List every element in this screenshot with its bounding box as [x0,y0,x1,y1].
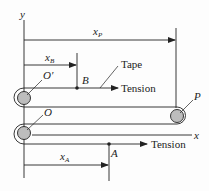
p-label: P [193,90,201,102]
tension-top-label: Tension [121,82,156,94]
x-axis-label: x [193,129,199,141]
tape-label: Tape [121,58,142,70]
a-label: A [110,147,118,159]
o-label: O [44,106,52,118]
tape-pulley-diagram: y x xP xB O′ O P B Tape Tension Tension … [0,0,209,191]
tension-bottom-label: Tension [151,138,186,150]
tape-leader [100,66,118,88]
xb-label: xB [44,51,55,65]
p-leader [180,100,193,113]
diagram-canvas: y x xP xB O′ O P B Tape Tension Tension … [0,0,209,191]
b-label: B [82,74,89,86]
o-prime-leader [27,80,42,95]
o-prime-label: O′ [43,69,54,81]
xp-label: xP [92,25,103,39]
y-axis-label: y [19,8,25,20]
o-leader [27,115,43,130]
point-b [75,86,79,90]
xa-label: xA [59,150,70,164]
